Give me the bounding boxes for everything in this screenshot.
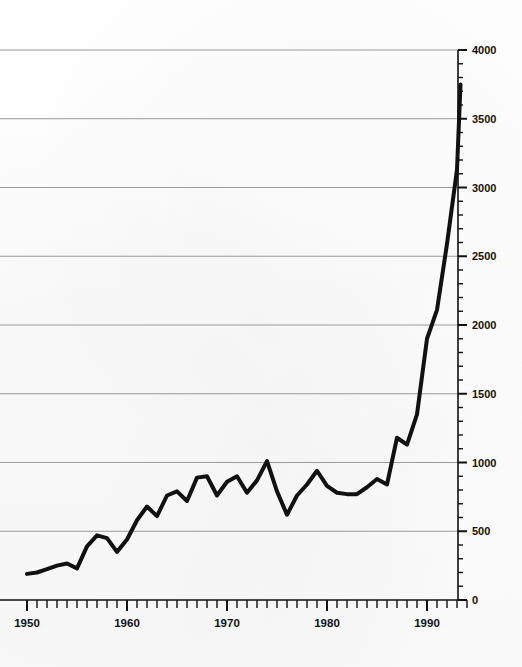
y-tick-label-2500: 2500 [472, 250, 496, 262]
y-tick-label-1500: 1500 [472, 388, 496, 400]
line-chart: 05001000150020002500300035004000 1950196… [0, 0, 522, 667]
data-line-series-1 [27, 84, 461, 574]
x-tick-label-1980: 1980 [314, 617, 340, 629]
chart-page: 05001000150020002500300035004000 1950196… [0, 0, 522, 667]
x-tick-label-1960: 1960 [114, 617, 140, 629]
x-tick-label-1950: 1950 [14, 617, 40, 629]
x-tick-label-1990: 1990 [414, 617, 440, 629]
gridlines-group [0, 50, 458, 531]
y-axis-tick-labels: 05001000150020002500300035004000 [472, 44, 496, 606]
y-tick-label-500: 500 [472, 525, 490, 537]
y-tick-label-0: 0 [472, 594, 478, 606]
x-tick-label-1970: 1970 [214, 617, 240, 629]
y-tick-label-1000: 1000 [472, 457, 496, 469]
y-tick-label-3500: 3500 [472, 113, 496, 125]
x-axis-minor-ticks [37, 600, 467, 608]
y-tick-label-4000: 4000 [472, 44, 496, 56]
y-tick-label-2000: 2000 [472, 319, 496, 331]
y-tick-label-3000: 3000 [472, 182, 496, 194]
x-axis-tick-labels: 19501960197019801990 [14, 617, 440, 629]
